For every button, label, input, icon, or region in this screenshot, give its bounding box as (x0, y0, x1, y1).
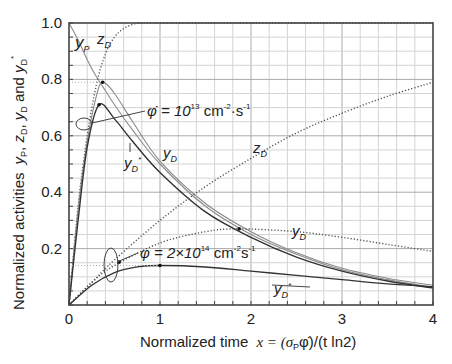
label-yD-high: yD (162, 144, 178, 164)
y-tick-label: 0.8 (41, 70, 62, 87)
peak-marker (237, 227, 241, 231)
x-tick-label: 2 (247, 310, 255, 327)
y-tick-label: 0.2 (41, 240, 62, 257)
svg-text:yD: yD (291, 222, 307, 242)
label-yD-low: yD (291, 222, 307, 242)
y-tick-label: 0.6 (41, 127, 62, 144)
svg-text:Normalized activitiesyP, zD, y: Normalized activitiesyP, zD, yD and yD* (9, 56, 29, 310)
callout-line-low (117, 253, 138, 262)
peak-marker (97, 103, 101, 107)
svg-text:yD*: yD* (273, 280, 292, 300)
x-tick-label: 1 (156, 310, 164, 327)
chart: 012340.20.40.60.81.0 yP zD φ̇ = 1013 cm-… (0, 0, 452, 364)
label-yDstar-low: yD* (273, 280, 292, 300)
svg-text:yD: yD (162, 144, 178, 164)
label-flux-low: φ = 2×1014 cm-2s-1 (140, 244, 256, 261)
svg-text:φ̇ = 1013 cm-2·s-1: φ̇ = 1013 cm-2·s-1 (147, 102, 251, 119)
label-zD-high: zD (96, 30, 112, 50)
y-tick-label: 1.0 (41, 14, 62, 31)
label-flux-high: φ̇ = 1013 cm-2·s-1 (147, 102, 251, 119)
x-tick-label: 4 (429, 310, 437, 327)
peak-marker (158, 264, 162, 268)
svg-text:zD: zD (96, 30, 112, 50)
svg-text:zD: zD (252, 139, 268, 159)
label-zD-low: zD (252, 139, 268, 159)
x-tick-label: 0 (65, 310, 73, 327)
circle-marker-high (76, 118, 92, 130)
y-axis-label: Normalized activitiesyP, zD, yD and yD* (9, 56, 29, 310)
x-axis-label: Normalized timex = (σPφ̇)/(t ln2) (140, 333, 356, 352)
peak-marker (101, 80, 105, 84)
svg-text:φ = 2×1014 cm-2s-1: φ = 2×1014 cm-2s-1 (140, 244, 256, 261)
svg-text:Normalized timex = (σPφ̇)/(t l: Normalized timex = (σPφ̇)/(t ln2) (140, 333, 356, 352)
x-tick-label: 3 (338, 310, 346, 327)
y-tick-label: 0.4 (41, 183, 62, 200)
